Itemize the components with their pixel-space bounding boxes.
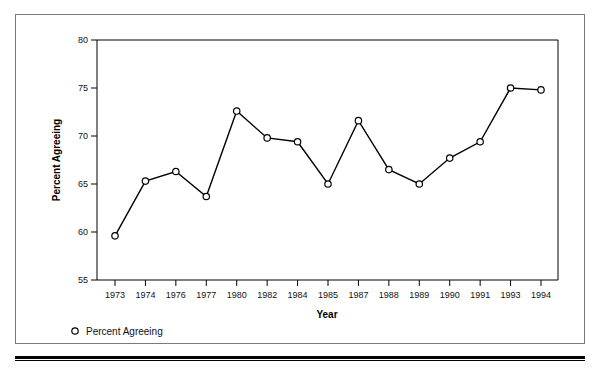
data-point-marker (447, 155, 453, 161)
x-tick-label: 1994 (531, 290, 551, 300)
y-axis-ticks: 80 75 70 65 60 55 (78, 35, 97, 285)
series-line-percent-agreeing (115, 88, 541, 236)
x-tick-label: 1988 (379, 290, 399, 300)
y-tick-label: 70 (78, 131, 88, 141)
data-point-marker (355, 117, 361, 123)
x-tick-label: 1976 (166, 290, 186, 300)
y-tick-label: 60 (78, 227, 88, 237)
y-tick-label: 55 (78, 275, 88, 285)
data-point-marker (203, 193, 209, 199)
figure-container: 80 75 70 65 60 55 1973197419761977198019… (0, 0, 602, 370)
data-point-marker (173, 168, 179, 174)
x-axis-title: Year (316, 309, 337, 320)
x-tick-label: 1993 (501, 290, 521, 300)
y-axis-title: Percent Agreeing (51, 119, 62, 201)
x-tick-label: 1989 (409, 290, 429, 300)
data-point-marker (386, 166, 392, 172)
data-point-marker (142, 178, 148, 184)
x-tick-label: 1984 (288, 290, 308, 300)
x-tick-label: 1985 (318, 290, 338, 300)
x-tick-label: 1974 (135, 290, 155, 300)
data-point-marker (234, 108, 240, 114)
data-series (112, 85, 544, 239)
y-tick-label: 80 (78, 35, 88, 45)
plot-axes (97, 40, 558, 280)
x-axis-ticks: 1973197419761977198019821984198519871988… (105, 280, 551, 300)
x-tick-label: 1987 (348, 290, 368, 300)
data-point-marker (112, 233, 118, 239)
bottom-rule-thin (15, 360, 585, 361)
data-point-marker (294, 139, 300, 145)
data-point-marker (538, 87, 544, 93)
x-tick-label: 1990 (440, 290, 460, 300)
x-tick-label: 1977 (196, 290, 216, 300)
data-point-marker (416, 181, 422, 187)
y-tick-label: 75 (78, 83, 88, 93)
y-tick-label: 65 (78, 179, 88, 189)
data-point-marker (325, 181, 331, 187)
chart-legend: Percent Agreeing (72, 326, 163, 337)
x-tick-label: 1982 (257, 290, 277, 300)
data-point-marker (264, 135, 270, 141)
line-chart: 80 75 70 65 60 55 1973197419761977198019… (0, 0, 602, 370)
x-tick-label: 1980 (227, 290, 247, 300)
legend-marker-icon (72, 328, 78, 334)
x-tick-label: 1973 (105, 290, 125, 300)
data-point-marker (507, 85, 513, 91)
data-point-marker (477, 139, 483, 145)
legend-entry-label: Percent Agreeing (86, 326, 163, 337)
x-tick-label: 1991 (470, 290, 490, 300)
bottom-rule-thick (15, 356, 585, 359)
